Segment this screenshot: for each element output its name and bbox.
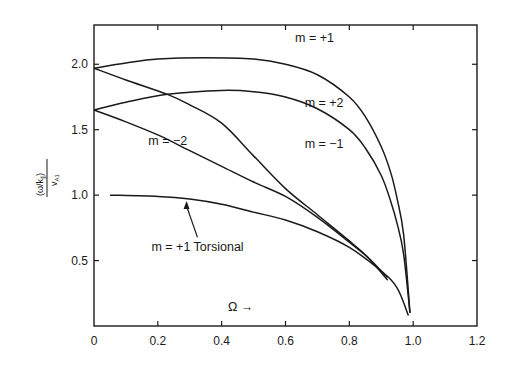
x-tick-label: 1.2 xyxy=(469,334,486,348)
curve-label: m = +1 Torsional xyxy=(151,240,243,254)
curve-label: m = −2 xyxy=(148,134,187,148)
y-label-den-sub: A1 xyxy=(54,173,60,181)
x-tick-label: 0.4 xyxy=(213,334,230,348)
curve-label: m = +2 xyxy=(305,96,344,110)
y-axis-ticks: 0.51.01.52.0 xyxy=(71,57,477,267)
y-label-numerator: (ω/k xyxy=(35,178,45,196)
x-tick-label: 0.8 xyxy=(341,334,358,348)
curves xyxy=(94,58,410,316)
chart: 00.20.40.60.81.01.2 0.51.01.52.0 m = +1m… xyxy=(0,0,512,365)
x-tick-label: 1.0 xyxy=(405,334,422,348)
curve-m-1 xyxy=(94,58,410,313)
plot-border xyxy=(94,25,477,326)
x-axis-ticks: 00.20.40.60.81.01.2 xyxy=(91,25,486,348)
x-tick-label: 0.2 xyxy=(149,334,166,348)
plot-frame xyxy=(94,25,477,326)
svg-text:vA1: vA1 xyxy=(49,173,60,186)
annotation-arrow xyxy=(187,206,198,237)
y-tick-label: 0.5 xyxy=(71,254,88,268)
curve-m-2 xyxy=(94,90,410,313)
x-tick-label: 0.6 xyxy=(277,334,294,348)
curve-m-1-torsional xyxy=(110,195,408,315)
y-tick-label: 1.5 xyxy=(71,123,88,137)
y-axis-label: (ω/k∥) vA1 xyxy=(35,159,60,197)
curve-label: m = −1 xyxy=(305,137,344,151)
curve-labels: m = +1m = +2m = −1m = −2m = +1 Torsional xyxy=(148,31,343,254)
curve-label: m = +1 xyxy=(295,31,334,45)
x-axis-label: Ω → xyxy=(228,300,253,314)
arrowhead-icon xyxy=(184,201,190,209)
svg-text:(ω/k∥): (ω/k∥) xyxy=(35,173,47,196)
y-tick-label: 1.0 xyxy=(71,188,88,202)
y-label-close: ) xyxy=(35,173,45,176)
y-tick-label: 2.0 xyxy=(71,57,88,71)
x-tick-label: 0 xyxy=(91,334,98,348)
